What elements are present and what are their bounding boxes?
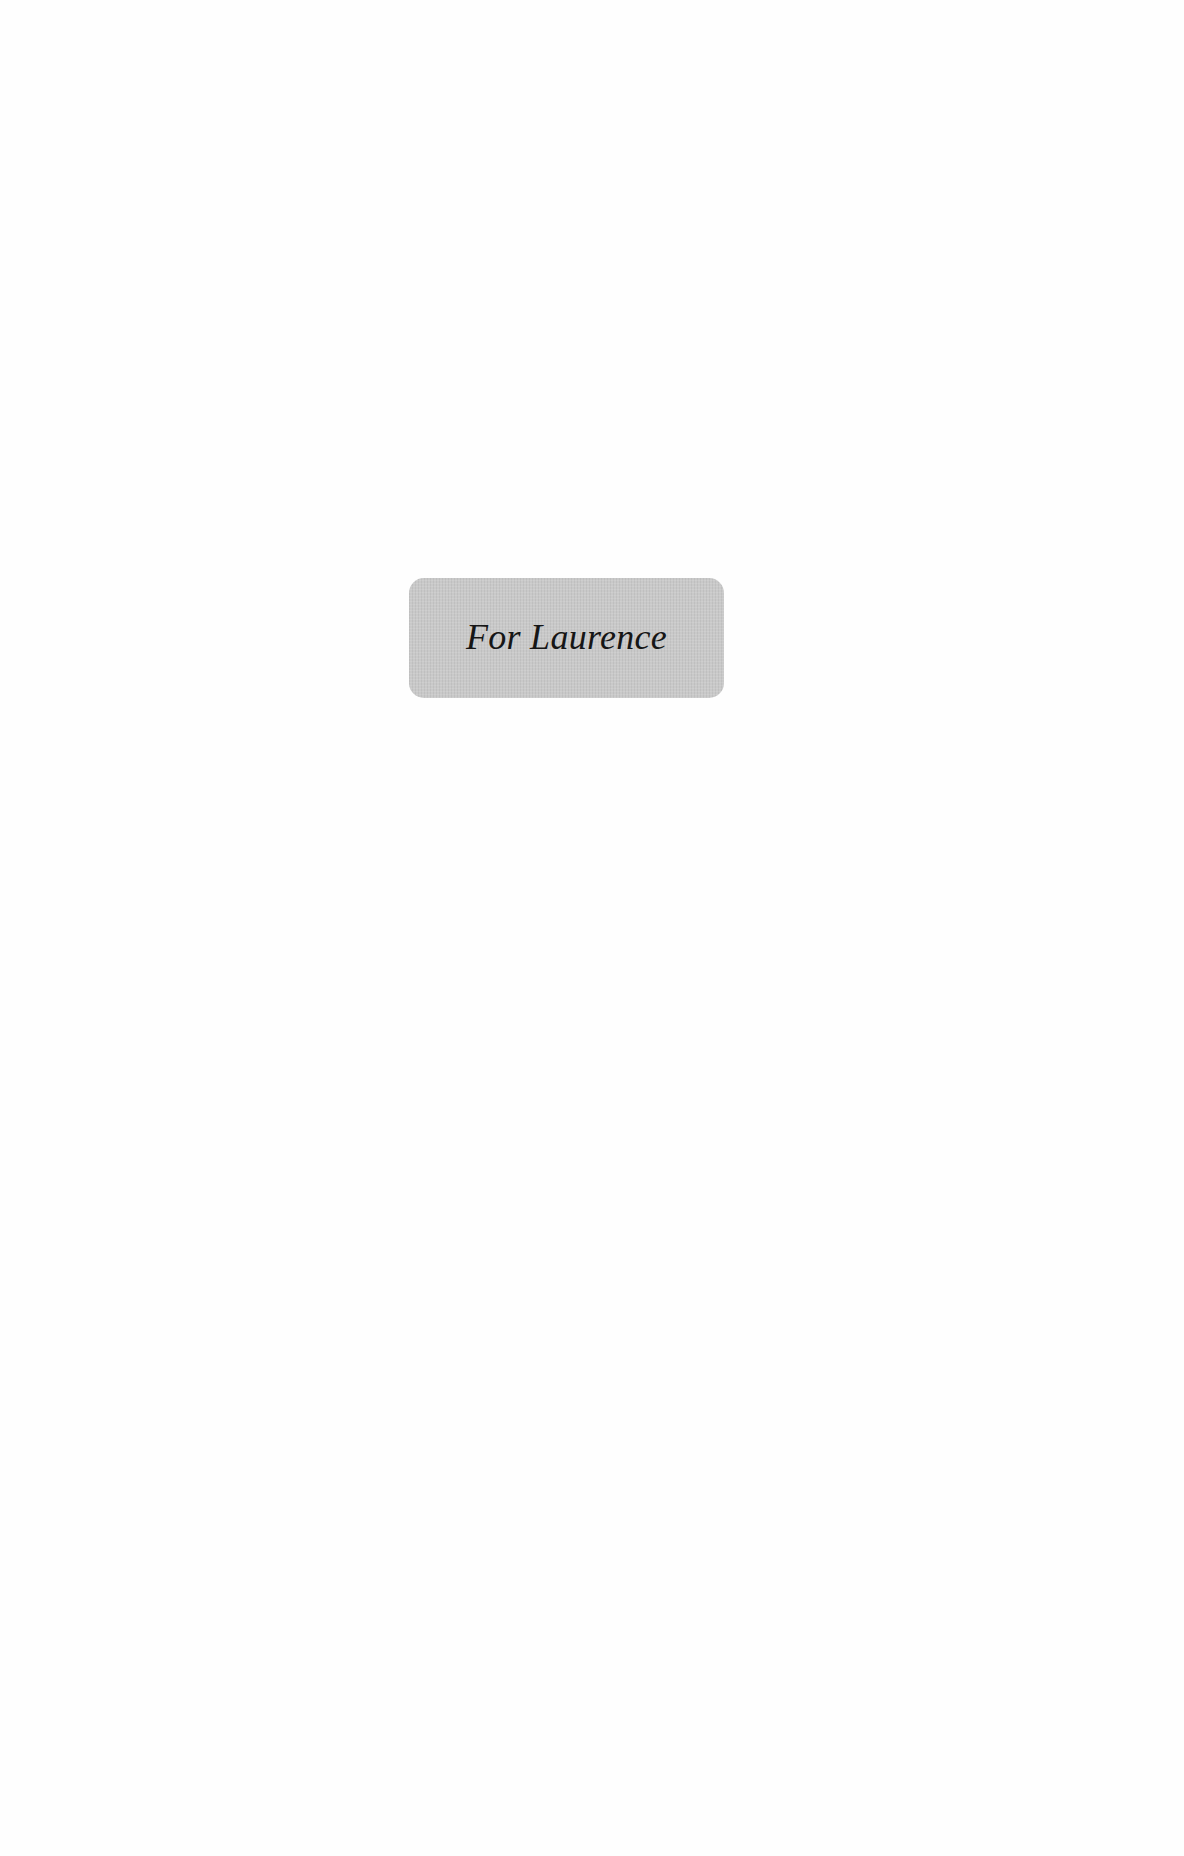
book-page: For Laurence: [0, 0, 1184, 1856]
dedication-box: For Laurence: [409, 578, 724, 698]
dedication-text: For Laurence: [466, 616, 667, 658]
